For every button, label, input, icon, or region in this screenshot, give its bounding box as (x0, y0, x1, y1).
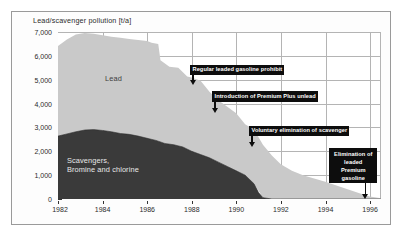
chart-title: Lead/scavenger pollution [t/a] (33, 16, 131, 25)
x-tick-label: 1982 (52, 206, 68, 213)
annotation-arrow-2 (212, 99, 218, 113)
annotation-elimination-of-leaded-premium-gasoline: Elimination of leaded Premium gasoline (329, 148, 377, 183)
x-tick-label: 1988 (184, 206, 200, 213)
y-tick-label: 5,000 (12, 76, 52, 83)
annotation-4-line2: leaded Premium (341, 159, 366, 173)
x-tick-label: 1984 (95, 206, 111, 213)
x-tick-mark (58, 201, 59, 204)
x-tick-mark (103, 201, 104, 204)
x-tick-label: 1992 (273, 206, 289, 213)
annotation-arrow-1 (190, 72, 196, 85)
x-tick-mark (236, 201, 237, 204)
annotation-4-line1: Elimination of (334, 151, 372, 157)
annotation-arrow-3 (249, 133, 255, 147)
y-tick-label: 4,000 (12, 100, 52, 107)
annotation-introduction-premium-plus-unleaded: Introduction of Premium Plus unlead (212, 91, 318, 102)
x-tick-mark (281, 201, 282, 204)
y-tick-mark (58, 199, 62, 200)
y-tick-label: 6,000 (12, 52, 52, 59)
x-tick-mark (192, 201, 193, 204)
chart-figure: Lead/scavenger pollution [t/a] 0 1,000 2… (0, 0, 403, 238)
x-tick-label: 1990 (229, 206, 245, 213)
annotation-arrow-4 (362, 178, 368, 199)
x-tick-label: 1986 (139, 206, 155, 213)
x-axis-labels: 1982 1984 1986 1988 1990 1992 1994 1996 (58, 201, 381, 217)
y-axis-labels: 0 1,000 2,000 3,000 4,000 5,000 6,000 7,… (8, 32, 52, 199)
x-tick-mark (370, 201, 371, 204)
x-tick-mark (326, 201, 327, 204)
x-tick-label: 1994 (318, 206, 334, 213)
y-tick-label: 0 (12, 196, 52, 203)
y-tick-label: 7,000 (12, 29, 52, 36)
y-tick-label: 2,000 (12, 148, 52, 155)
annotation-voluntary-elimination-of-scavengers: Voluntary elimination of scavenger (249, 126, 349, 137)
y-tick-label: 3,000 (12, 124, 52, 131)
x-tick-mark (147, 201, 148, 204)
series-label-scavengers-line2: Bromine and chlorine (67, 165, 139, 175)
x-tick-label: 1996 (362, 206, 378, 213)
series-label-lead: Lead (105, 74, 122, 83)
annotation-regular-leaded-gasoline-prohibited: Regular leaded gasoline prohibit (190, 65, 284, 76)
y-tick-label: 1,000 (12, 172, 52, 179)
